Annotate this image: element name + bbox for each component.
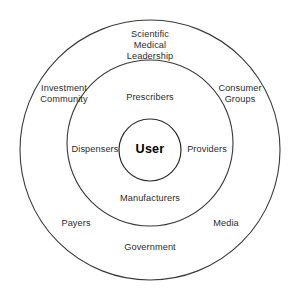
- label-government: Government: [124, 242, 176, 253]
- label-payers: Payers: [61, 218, 90, 229]
- stakeholder-circles-diagram: User Prescribers Dispensers Providers Ma…: [0, 0, 296, 298]
- label-user: User: [136, 144, 165, 155]
- label-scientific-medical-leadership: Scientific Medical Leadership: [127, 29, 173, 63]
- label-providers: Providers: [187, 144, 227, 155]
- label-consumer-groups: Consumer Groups: [218, 83, 261, 105]
- label-media: Media: [213, 218, 239, 229]
- label-manufacturers: Manufacturers: [120, 193, 180, 204]
- label-dispensers: Dispensers: [72, 144, 119, 155]
- label-prescribers: Prescribers: [126, 92, 174, 103]
- label-investment-community: Investment Community: [40, 83, 87, 105]
